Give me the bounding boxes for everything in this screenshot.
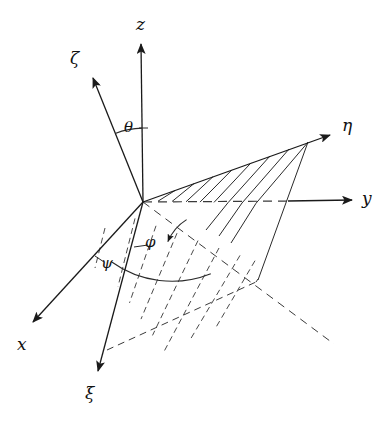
axis-label-eta: η	[342, 117, 352, 134]
axis-z	[141, 44, 143, 202]
axis-y	[288, 200, 352, 201]
angle-label-psi: ψ	[101, 256, 113, 271]
axis-label-x: x	[17, 336, 27, 353]
axis-eta	[143, 135, 330, 202]
axis-zeta	[93, 78, 143, 202]
line-of-nodes	[143, 202, 334, 344]
axis-y-dashed-segment	[143, 201, 291, 202]
plane-hatch-lower	[95, 218, 255, 351]
axis-label-y: y	[362, 190, 372, 207]
plane-right-edge	[258, 142, 308, 280]
axis-label-xi: ξ	[85, 385, 94, 402]
plane-outline	[107, 279, 258, 350]
euler-angles-figure: z y x ζ η ξ θ φ ψ	[0, 0, 392, 421]
axis-label-zeta: ζ	[70, 50, 79, 67]
axis-label-z: z	[136, 16, 145, 33]
angle-label-phi: φ	[145, 235, 156, 250]
euler-diagram-canvas	[0, 0, 392, 421]
angle-label-theta: θ	[124, 120, 133, 135]
plane-hatch-near-face	[206, 203, 256, 243]
